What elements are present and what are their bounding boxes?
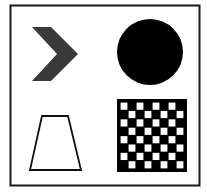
checker-cell [137,119,144,126]
trapezoid-outline-shape [30,116,81,170]
checkerboard-frame [117,99,187,172]
checker-cell [129,144,136,151]
checker-cell [169,136,176,143]
shapes-figure [0,0,207,195]
checker-cell [121,153,128,160]
checker-cell [129,161,136,168]
checker-cell [137,153,144,160]
checker-cell [153,136,160,143]
checker-cell [137,136,144,143]
checker-cell [153,103,160,110]
checker-cell [145,144,152,151]
checker-cell [121,119,128,126]
checker-cell [129,111,136,118]
checker-cell [161,144,168,151]
checker-cell [121,103,128,110]
checker-cell [145,128,152,135]
checker-cell [161,161,168,168]
checker-cell [129,128,136,135]
checker-cell [153,153,160,160]
checker-cell [145,161,152,168]
filled-circle-shape [117,19,183,85]
checker-cell [161,111,168,118]
checker-cell [177,161,184,168]
checkerboard-shape [117,99,187,172]
chevron-right-icon [32,27,78,81]
checker-cell [177,111,184,118]
checker-cell [153,119,160,126]
checker-cell [177,128,184,135]
checker-cell [177,144,184,151]
checker-cell [161,128,168,135]
checker-cell [169,103,176,110]
checker-cell [169,153,176,160]
checker-cell [169,119,176,126]
checker-cell [145,111,152,118]
checker-cell [121,136,128,143]
checker-cell [137,103,144,110]
